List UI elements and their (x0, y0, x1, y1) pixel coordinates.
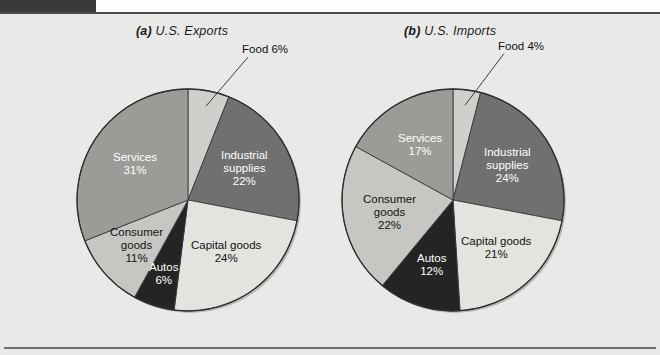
figure-canvas: (a) U.S. Exports (b) U.S. Imports Food 6… (0, 0, 660, 355)
section-tab-block (0, 0, 96, 12)
chart-tag-b: (b) (404, 24, 421, 38)
slice-label-food: Food 6% (242, 43, 288, 56)
chart-title-imports: (b) U.S. Imports (404, 24, 496, 38)
slice-label-food: Food 4% (498, 40, 544, 53)
pie-svg (73, 85, 303, 315)
pie-chart-us-imports (338, 85, 568, 315)
pie-chart-us-exports (73, 85, 303, 315)
pie-svg (338, 85, 568, 315)
chart-title-text-a: U.S. Exports (156, 24, 229, 38)
chart-title-text-b: U.S. Imports (424, 24, 496, 38)
chart-title-exports: (a) U.S. Exports (136, 24, 228, 38)
bottom-rule (4, 347, 656, 349)
chart-tag-a: (a) (136, 24, 152, 38)
